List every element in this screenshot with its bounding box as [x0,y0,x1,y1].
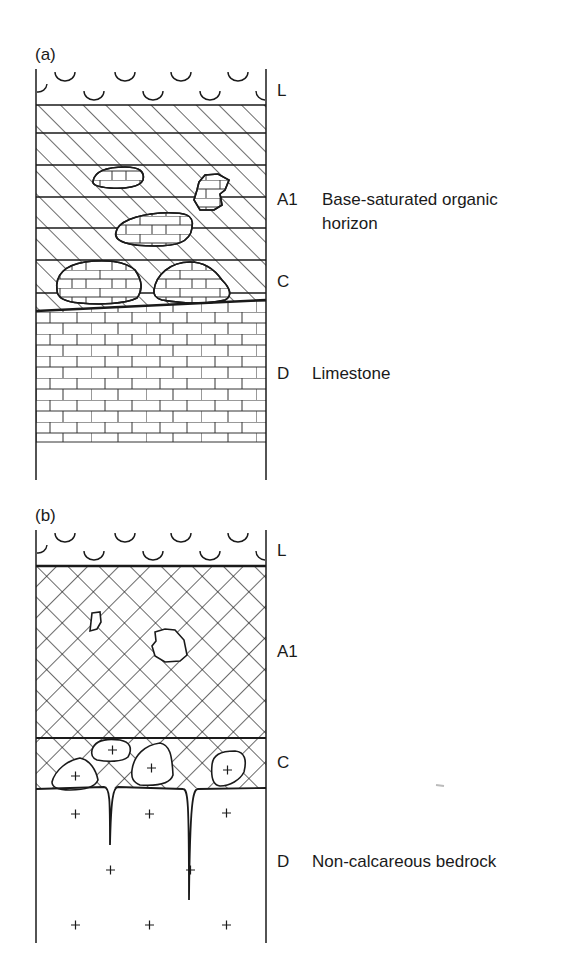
horizon-desc-a-a1-line1: Base-saturated organic [322,190,498,210]
horizon-code-a-d: D [277,364,289,384]
horizon-code-a-c: C [277,272,289,292]
horizon-code-a-l: L [277,81,286,101]
panel-b-label: (b) [35,506,56,526]
horizon-code-b-d: D [277,852,289,872]
c-d-boundary-cracks [36,787,266,900]
horizon-code-b-l: L [277,541,286,561]
horizon-code-a-a1: A1 [277,190,298,210]
horizon-code-b-a1: A1 [277,642,298,662]
limestone-bedrock [36,300,266,442]
soil-profile-diagram [0,0,582,965]
horizon-desc-a-a1-line2: horizon [322,214,378,234]
litter-symbols [37,72,265,100]
horizon-desc-a-d: Limestone [312,364,390,384]
panel-b [36,530,444,943]
panel-a-label: (a) [35,45,56,65]
panel-a [36,69,266,480]
litter-symbols [37,533,265,560]
horizon-code-b-c: C [277,753,289,773]
horizon-desc-b-d: Non-calcareous bedrock [312,852,496,872]
